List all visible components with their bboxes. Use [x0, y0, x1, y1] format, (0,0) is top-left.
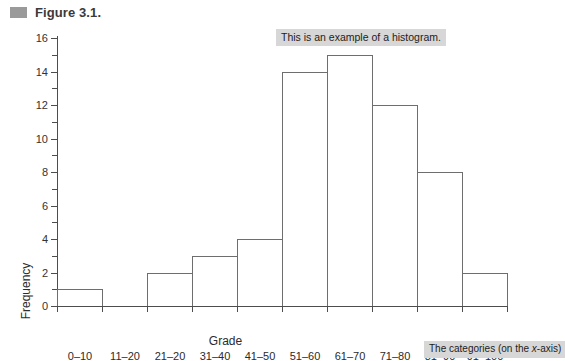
bar: [417, 172, 463, 306]
y-tick: [52, 256, 57, 257]
y-axis-title-holder: Frequency: [18, 120, 32, 220]
x-tick: [417, 306, 418, 312]
x-tick-label: 41–50: [245, 351, 276, 361]
bar: [57, 289, 103, 306]
y-tick: [52, 189, 57, 190]
x-tick-label: 61–70: [335, 351, 366, 361]
x-tick: [192, 306, 193, 312]
x-tick: [372, 306, 373, 312]
x-tick: [237, 306, 238, 312]
annotation-categories-post: -axis): [537, 343, 561, 354]
figure-title-row: Figure 3.1.: [10, 3, 101, 21]
plot-area: 0246810121416 0–1011–2021–2031–4041–5051…: [57, 38, 507, 306]
y-tick-label: 16: [36, 33, 48, 44]
y-tick: [52, 88, 57, 89]
x-tick: [282, 306, 283, 312]
y-tick-label: 2: [42, 267, 48, 278]
x-tick: [57, 306, 58, 312]
bar: [282, 72, 328, 307]
y-tick-label: 4: [42, 234, 48, 245]
y-tick: [51, 172, 57, 173]
x-tick-label: 11–20: [110, 351, 140, 361]
y-tick: [51, 139, 57, 140]
y-tick: [51, 239, 57, 240]
y-tick: [51, 105, 57, 106]
x-tick-label: 71–80: [380, 351, 411, 361]
y-tick-label: 0: [42, 301, 48, 312]
y-tick: [51, 273, 57, 274]
x-tick-label: 21–20: [155, 351, 186, 361]
y-tick-label: 10: [36, 133, 48, 144]
bar: [237, 239, 283, 306]
y-tick: [52, 122, 57, 123]
x-tick: [507, 306, 508, 312]
x-tick: [147, 306, 148, 312]
x-tick: [327, 306, 328, 312]
x-tick-label: 51–60: [290, 351, 321, 361]
annotation-categories-pre: The categories (on the: [429, 343, 532, 354]
y-tick: [52, 155, 57, 156]
bar: [372, 105, 418, 306]
bar: [462, 273, 508, 307]
annotation-categories-note: The categories (on the x-axis): [424, 341, 565, 358]
x-tick-label: 0–10: [68, 351, 92, 361]
figure-marker-icon: [10, 7, 27, 18]
page-title: Figure 3.1.: [35, 6, 101, 19]
x-tick: [102, 306, 103, 312]
y-tick-label: 14: [36, 66, 48, 77]
y-tick: [52, 55, 57, 56]
y-tick: [52, 222, 57, 223]
bar: [192, 256, 238, 306]
y-tick: [51, 38, 57, 39]
y-tick-label: 8: [42, 167, 48, 178]
bar: [147, 273, 193, 307]
y-tick-label: 12: [36, 100, 48, 111]
x-tick-label: 31–40: [200, 351, 231, 361]
x-axis-title: Grade: [209, 334, 242, 348]
y-tick: [51, 72, 57, 73]
y-tick-label: 6: [42, 200, 48, 211]
y-axis-title: Frequency: [19, 263, 33, 320]
y-tick: [51, 206, 57, 207]
bar: [327, 55, 373, 306]
x-tick: [462, 306, 463, 312]
annotation-histogram-note: This is an example of a histogram.: [276, 29, 446, 46]
